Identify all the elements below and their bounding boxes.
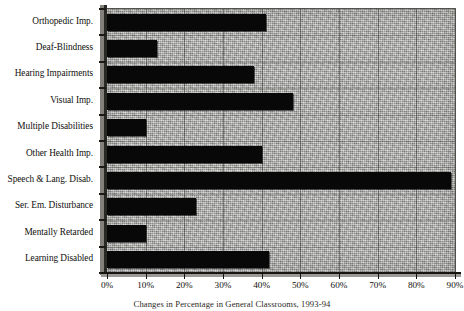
bar-row <box>107 167 451 193</box>
x-axis-tick-label: 40% <box>253 280 270 290</box>
category-label: Other Health Imp. <box>0 140 100 166</box>
category-axis-labels: Orthopedic Imp. Deaf-Blindness Hearing I… <box>0 8 100 272</box>
x-axis-tick <box>455 272 456 279</box>
bar-row <box>107 220 146 246</box>
x-axis-tick <box>416 272 417 279</box>
category-label: Deaf-Blindness <box>0 34 100 60</box>
x-axis-tick-label: 80% <box>408 280 425 290</box>
bar <box>107 93 293 110</box>
bar-row <box>107 9 266 35</box>
x-axis-tick-label: 0% <box>101 280 113 290</box>
x-axis-tick <box>146 272 147 279</box>
x-axis-shadow <box>101 274 461 277</box>
y-axis-tick <box>99 34 106 36</box>
category-label: Speech & Lang. Disab. <box>0 166 100 192</box>
bar <box>107 146 262 163</box>
x-axis-tick <box>107 272 108 279</box>
bar <box>107 40 157 57</box>
y-axis-tick <box>99 8 106 10</box>
x-axis-tick-label: 70% <box>369 280 386 290</box>
category-label: Multiple Disabilities <box>0 114 100 140</box>
bar <box>107 251 269 268</box>
y-axis-tick <box>99 140 106 142</box>
x-axis-tick-label: 60% <box>331 280 348 290</box>
bar-row <box>107 141 262 167</box>
bar-row <box>107 35 157 61</box>
plot-area <box>107 8 456 273</box>
y-axis-tick <box>99 219 106 221</box>
x-axis-tick-label: 20% <box>176 280 193 290</box>
bar-row <box>107 115 146 141</box>
bar <box>107 198 196 215</box>
bar <box>107 225 146 242</box>
chart-caption: Changes in Percentage in General Classro… <box>0 299 464 309</box>
gridline <box>455 9 456 273</box>
y-axis-tick <box>99 87 106 89</box>
bar-row <box>107 247 269 273</box>
y-axis-tick <box>99 246 106 248</box>
x-axis-tick-label: 50% <box>292 280 309 290</box>
x-axis-tick <box>262 272 263 279</box>
y-axis-tick <box>99 166 106 168</box>
category-label: Mentally Retarded <box>0 219 100 245</box>
category-label: Orthopedic Imp. <box>0 8 100 34</box>
category-label: Learning Disabled <box>0 246 100 272</box>
chart-figure: Orthopedic Imp. Deaf-Blindness Hearing I… <box>0 0 464 311</box>
bar-series <box>107 9 455 273</box>
x-axis-tick <box>184 272 185 279</box>
bar <box>107 66 254 83</box>
x-axis-tick <box>378 272 379 279</box>
x-axis-tick-label: 30% <box>215 280 232 290</box>
y-axis-tick <box>99 114 106 116</box>
bar-row <box>107 88 293 114</box>
x-axis-tick <box>223 272 224 279</box>
category-label: Ser. Em. Disturbance <box>0 193 100 219</box>
x-axis-tick-label: 90% <box>447 280 464 290</box>
bar-row <box>107 62 254 88</box>
y-axis-tick <box>99 61 106 63</box>
x-axis-tick-label: 10% <box>137 280 154 290</box>
bar-row <box>107 194 196 220</box>
bar <box>107 119 146 136</box>
y-axis-tick <box>99 193 106 195</box>
category-label: Visual Imp. <box>0 87 100 113</box>
bar <box>107 14 266 31</box>
category-label: Hearing Impairments <box>0 61 100 87</box>
bar <box>107 172 451 189</box>
x-axis-tick <box>339 272 340 279</box>
x-axis-tick <box>300 272 301 279</box>
